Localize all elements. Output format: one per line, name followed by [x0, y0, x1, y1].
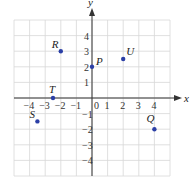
y-tick-label: −1 — [82, 109, 93, 120]
y-tick-label: 2 — [84, 62, 89, 73]
point-label-r: R — [51, 38, 59, 50]
point-label-u: U — [126, 45, 135, 57]
y-tick-label: 1 — [84, 77, 89, 88]
x-tick-label: 4 — [151, 100, 156, 111]
x-axis-label: x — [183, 92, 189, 104]
axes — [14, 8, 182, 176]
point-label-s: S — [29, 108, 35, 120]
x-tick-label: 1 — [105, 100, 110, 111]
y-tick-label: 3 — [84, 46, 89, 57]
x-tick-label: 2 — [120, 100, 125, 111]
point-label-t: T — [49, 83, 56, 95]
y-tick-label: 4 — [84, 31, 89, 42]
point-p — [90, 65, 94, 69]
point-r — [59, 49, 63, 53]
y-axis-label: y — [87, 0, 93, 8]
point-t — [51, 96, 55, 100]
x-tick-label: −3 — [39, 100, 50, 111]
y-axis-arrow-icon — [89, 8, 95, 16]
point-q — [152, 127, 156, 131]
point-s — [35, 119, 39, 123]
coordinate-plane: xy−4−3−2−1012344321−1−2−3−4 PURTSQ — [0, 0, 192, 190]
x-tick-label: 3 — [136, 100, 141, 111]
point-label-q: Q — [146, 112, 154, 124]
x-tick-label: −1 — [70, 100, 81, 111]
point-u — [121, 57, 125, 61]
y-tick-label: −4 — [82, 155, 93, 166]
point-label-p: P — [95, 55, 103, 67]
y-tick-label: −3 — [82, 140, 93, 151]
x-axis-arrow-icon — [174, 95, 182, 101]
x-tick-label: −2 — [55, 100, 66, 111]
data-points: PURTSQ — [29, 38, 156, 131]
y-tick-label: −2 — [82, 124, 93, 135]
x-tick-label: 0 — [94, 100, 99, 111]
